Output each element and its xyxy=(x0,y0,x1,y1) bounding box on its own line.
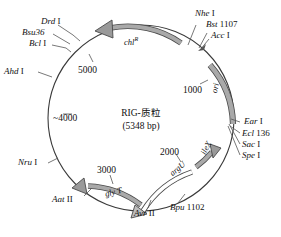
site-avr-ii: Avr II xyxy=(134,209,155,218)
site-bsu36-name: Bsu36 xyxy=(22,27,45,37)
site-spe-i-numeral: I xyxy=(257,150,260,160)
site-sac-i-name: Sac xyxy=(242,139,255,149)
scale-tick-1000: 1000 xyxy=(183,86,202,96)
gene-label-ori: ori xyxy=(210,82,221,94)
gene-label-chl: chlR xyxy=(124,36,138,47)
site-nhe-i-numeral: I xyxy=(212,8,215,18)
site-acc-i-name: Acc xyxy=(211,30,225,40)
site-nru-i: Nru I xyxy=(18,158,37,167)
site-nhe-i-name: Nhe xyxy=(195,8,210,18)
site-acc-i-numeral: I xyxy=(227,30,230,40)
site-ahd-i-name: Ahd xyxy=(4,66,19,76)
site-bst-1107-numeral: 1107 xyxy=(220,19,238,29)
site-nru-i-name: Nru xyxy=(18,157,32,167)
site-aat-ii: Aat II xyxy=(52,195,73,204)
site-bcl-i-name: Bcl xyxy=(29,38,41,48)
plasmid-name: RIG-质粒 xyxy=(95,109,187,119)
scale-tick-3000: 3000 xyxy=(97,166,116,176)
site-bpu-1102: Bpu 1102 xyxy=(170,203,204,212)
site-bcl-i-numeral: I xyxy=(43,38,46,48)
site-bcl-i: Bcl I xyxy=(29,39,46,48)
scale-tick-5000: 5000 xyxy=(78,66,97,76)
site-ear-i: Ear I xyxy=(244,117,263,126)
site-ahd-i: Ahd I xyxy=(4,67,24,76)
plasmid-size: (5348 bp) xyxy=(95,122,187,132)
gene-label-chl-text: chl xyxy=(124,37,134,47)
site-spe-i-name: Spe xyxy=(242,150,255,160)
site-bpu-1102-numeral: 1102 xyxy=(187,202,205,212)
site-avr-ii-name: Avr xyxy=(134,208,147,218)
site-bst-1107: Bst 1107 xyxy=(206,20,237,29)
site-drd-i-name: Drd xyxy=(41,16,55,26)
scale-tick-2000: 2000 xyxy=(160,148,179,158)
gene-arc-ori xyxy=(210,65,233,124)
site-acc-i: Acc I xyxy=(211,31,230,40)
site-ecl-136-name: Ecl xyxy=(242,128,254,138)
site-nru-i-numeral: I xyxy=(34,157,37,167)
site-ear-i-numeral: I xyxy=(260,116,263,126)
site-ecl-136-numeral: 136 xyxy=(256,128,270,138)
site-sac-i-numeral: I xyxy=(257,139,260,149)
site-drd-i: Drd I xyxy=(41,17,60,26)
scale-tick-4000: ~4000 xyxy=(53,114,77,124)
site-spe-i: Spe I xyxy=(242,151,260,160)
site-ahd-i-numeral: I xyxy=(21,66,24,76)
site-avr-ii-numeral: II xyxy=(149,208,155,218)
site-sac-i: Sac I xyxy=(242,140,260,149)
site-ecl-136: Ecl 136 xyxy=(242,129,270,138)
site-bsu36: Bsu36 xyxy=(22,28,45,37)
site-ear-i-name: Ear xyxy=(244,116,258,126)
gene-label-chl-sup: R xyxy=(134,36,138,42)
site-nhe-i: Nhe I xyxy=(195,9,215,18)
site-aat-ii-name: Aat xyxy=(52,194,65,204)
site-bpu-1102-name: Bpu xyxy=(170,202,185,212)
plasmid-map-figure: RIG-质粒 (5348 bp) 1000 2000 3000 ~4000 50… xyxy=(0,0,281,237)
site-bst-1107-name: Bst xyxy=(206,19,218,29)
site-drd-i-numeral: I xyxy=(57,16,60,26)
site-aat-ii-numeral: II xyxy=(67,194,73,204)
